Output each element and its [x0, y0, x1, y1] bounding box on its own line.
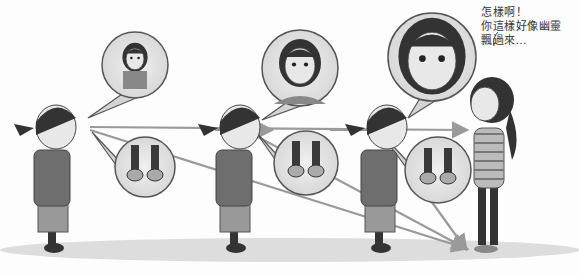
boy-shirt	[361, 150, 397, 206]
girl-eye	[304, 62, 308, 66]
caption-line-2: 你這樣好像幽靈	[481, 20, 577, 34]
shoe	[440, 172, 456, 184]
comic-illustration: 怎樣啊！ 你這樣好像幽靈 飄過來…	[0, 0, 579, 276]
shoe	[288, 165, 304, 177]
leg	[444, 148, 452, 174]
girl-eye	[419, 55, 426, 62]
shoe	[420, 172, 436, 184]
speech-caption: 怎樣啊！ 你這樣好像幽靈 飄過來…	[481, 6, 577, 48]
boy-figure-1	[14, 105, 76, 253]
leg	[131, 145, 139, 171]
caption-line-3: 飄過來…	[481, 34, 577, 48]
shoe	[147, 169, 163, 181]
girl-ponytail	[506, 110, 517, 160]
shoe	[127, 169, 143, 181]
girl-figure	[470, 32, 517, 253]
girl-eye	[130, 57, 133, 60]
boy-shoe	[371, 243, 391, 253]
leg	[292, 141, 300, 167]
girl-eye	[137, 57, 140, 60]
boy-shoe	[44, 243, 64, 253]
boy-figure-2	[198, 105, 260, 253]
thought-bubble-girl-far	[88, 32, 168, 118]
girl-eye	[292, 62, 296, 66]
thought-bubble-shoes-1	[92, 132, 175, 197]
boy-shirt	[216, 150, 252, 206]
bubble-circle	[405, 137, 471, 203]
boy-shirt	[34, 150, 70, 206]
sight-arrow	[90, 127, 465, 130]
bubble-circle	[274, 131, 338, 195]
girl-shoe	[474, 245, 498, 253]
boy-ponytail	[14, 124, 34, 136]
bubble-circle	[115, 137, 175, 197]
girl-eye	[438, 55, 445, 62]
boy-shoe	[226, 243, 246, 253]
caption-line-1: 怎樣啊！	[481, 6, 577, 20]
leg	[312, 141, 320, 167]
boy-figure-3	[345, 105, 407, 253]
leg	[424, 148, 432, 174]
thought-bubble-girl-mid	[262, 30, 338, 120]
girl-shirt	[123, 71, 147, 89]
thought-bubble-girl-close	[388, 13, 476, 118]
girl-leg	[490, 185, 498, 245]
girl-face	[471, 87, 499, 121]
leg	[151, 145, 159, 171]
shoe	[308, 165, 324, 177]
girl-leg	[478, 185, 486, 245]
